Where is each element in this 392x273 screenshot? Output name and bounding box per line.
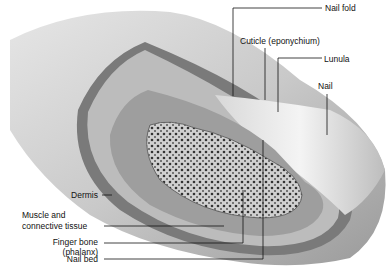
label-lunula: Lunula <box>324 54 350 64</box>
label-nail-fold: Nail fold <box>325 3 356 13</box>
finger-illustration <box>0 0 392 273</box>
label-nail-bed: Nail bed <box>67 254 98 264</box>
label-dermis: Dermis <box>71 190 98 200</box>
label-finger-bone-line1: Finger bone <box>53 237 98 247</box>
nail-anatomy-diagram: Nail fold Cuticle (eponychium) Lunula Na… <box>0 0 392 273</box>
label-muscle-line2: connective tissue <box>22 221 87 231</box>
label-nail: Nail <box>318 81 333 91</box>
label-muscle-line1: Muscle and <box>22 210 65 220</box>
label-cuticle: Cuticle (eponychium) <box>240 36 320 46</box>
